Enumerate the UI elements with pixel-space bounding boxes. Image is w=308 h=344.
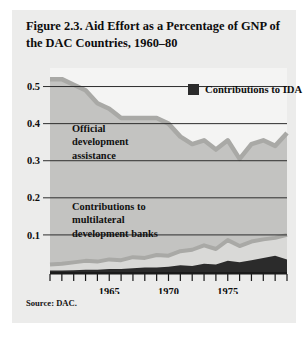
y-tick-label: 0.3 (27, 155, 40, 166)
source-note: Source: DAC. (26, 298, 77, 308)
figure-panel: Figure 2.3. Aid Effort as a Percentage o… (12, 10, 296, 323)
y-tick-label: 0.2 (27, 192, 40, 203)
legend-label-ida: Contributions to IDA (205, 84, 302, 95)
x-tick-label: 1975 (217, 286, 238, 294)
y-tick-label: 0.1 (27, 230, 40, 241)
y-tick-label: 0.5 (27, 81, 40, 92)
x-tick-label: 1970 (158, 286, 179, 294)
annotation-multilateral: Contributions tomultilateraldevelopment … (72, 200, 158, 240)
figure-title: Figure 2.3. Aid Effort as a Percentage o… (26, 18, 288, 51)
legend-swatch-ida (188, 84, 199, 95)
chart-legend: Contributions to IDA (188, 84, 302, 95)
y-tick-label: 0.4 (27, 118, 40, 129)
annotation-oda: Officialdevelopmentassistance (72, 122, 129, 162)
x-tick-label: 1965 (99, 286, 120, 294)
